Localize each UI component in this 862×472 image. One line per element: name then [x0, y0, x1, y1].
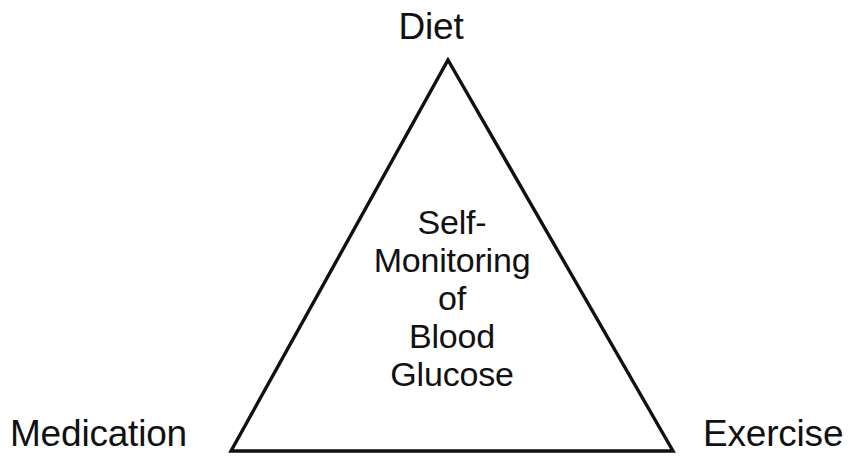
corner-label-diet: Diet — [0, 8, 862, 45]
center-label-line: of — [272, 279, 632, 317]
corner-label-medication: Medication — [10, 415, 187, 452]
corner-label-exercise: Exercise — [703, 415, 843, 452]
center-label-line: Self- — [272, 203, 632, 241]
center-label: Self- Monitoring of Blood Glucose — [272, 203, 632, 393]
center-label-line: Glucose — [272, 355, 632, 393]
center-label-line: Blood — [272, 317, 632, 355]
center-label-line: Monitoring — [272, 241, 632, 279]
diagram-canvas: Diet Medication Exercise Self- Monitorin… — [0, 0, 862, 472]
